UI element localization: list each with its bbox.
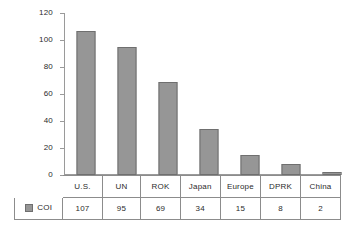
y-tick-label-100: 100	[39, 36, 53, 44]
category-header-china: China	[301, 176, 341, 198]
legend-swatch-icon	[25, 204, 33, 212]
table-row-coi: COI 107 95 69 34 15 8 2	[15, 198, 341, 220]
bar-slot-un	[106, 13, 147, 175]
y-tick-label-60: 60	[44, 90, 53, 98]
bar-slot-europe	[229, 13, 270, 175]
bar-rok[interactable]	[158, 82, 177, 175]
table-row-categories: U.S. UN ROK Japan Europe DPRK China	[15, 176, 341, 198]
plot-area: 0 20 40 60 80 100 120	[64, 13, 341, 175]
value-cell-europe: 15	[220, 198, 260, 220]
bar-europe[interactable]	[240, 155, 259, 175]
series-legend-label: COI	[37, 203, 52, 212]
bar-us[interactable]	[76, 31, 95, 175]
category-header-dprk: DPRK	[261, 176, 301, 198]
series-legend-cell: COI	[15, 198, 63, 220]
value-cell-us: 107	[63, 198, 102, 220]
value-cell-un: 95	[102, 198, 141, 220]
y-tick-label-80: 80	[44, 63, 53, 71]
bar-slot-japan	[188, 13, 229, 175]
bar-slot-rok	[147, 13, 188, 175]
bar-dprk[interactable]	[281, 164, 300, 175]
y-tick-label-40: 40	[44, 117, 53, 125]
category-header-rok: ROK	[141, 176, 180, 198]
chart-data-table: U.S. UN ROK Japan Europe DPRK China COI …	[14, 175, 341, 220]
category-header-europe: Europe	[220, 176, 260, 198]
bar-un[interactable]	[117, 47, 136, 175]
table-corner-cell	[15, 176, 63, 198]
value-cell-dprk: 8	[261, 198, 301, 220]
bar-chart-figure: 0 20 40 60 80 100 120	[0, 0, 353, 235]
bar-slot-us	[65, 13, 106, 175]
category-header-us: U.S.	[63, 176, 102, 198]
y-tick-label-20: 20	[44, 144, 53, 152]
category-header-japan: Japan	[180, 176, 220, 198]
value-cell-japan: 34	[180, 198, 220, 220]
value-cell-china: 2	[301, 198, 341, 220]
bar-slot-dprk	[270, 13, 311, 175]
bar-japan[interactable]	[199, 129, 218, 175]
value-cell-rok: 69	[141, 198, 180, 220]
category-header-un: UN	[102, 176, 141, 198]
y-tick-label-120: 120	[39, 9, 53, 17]
bars-layer	[64, 13, 341, 175]
bar-slot-china	[311, 13, 352, 175]
